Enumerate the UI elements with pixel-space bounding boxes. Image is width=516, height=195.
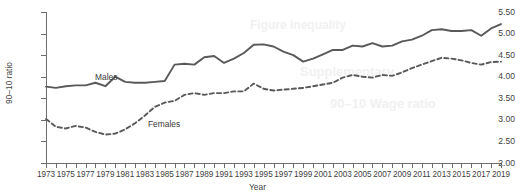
x-tick-mark — [224, 164, 225, 168]
x-tick-mark — [115, 164, 116, 168]
x-tick-mark — [95, 164, 96, 168]
x-tick-mark — [392, 164, 393, 168]
series-label-males: Males — [95, 72, 117, 82]
x-tick-mark — [382, 164, 383, 168]
x-tick-mark — [313, 164, 314, 168]
x-tick-mark — [244, 164, 245, 168]
x-tick-mark — [214, 164, 215, 168]
x-tick-mark — [254, 164, 255, 168]
x-tick-mark — [323, 164, 324, 168]
title-remnant — [6, 0, 306, 4]
x-tick-mark — [46, 164, 47, 168]
x-tick-mark — [333, 164, 334, 168]
x-tick-mark — [303, 164, 304, 168]
x-tick-mark — [175, 164, 176, 168]
y-axis-title: 90–10 ratio — [4, 53, 14, 113]
x-tick-mark — [56, 164, 57, 168]
x-tick-mark — [432, 164, 433, 168]
x-tick-mark — [66, 164, 67, 168]
x-tick-label: 2019 — [486, 170, 516, 179]
x-tick-mark — [471, 164, 472, 168]
series-line-females — [46, 58, 501, 135]
x-tick-mark — [274, 164, 275, 168]
x-tick-mark — [264, 164, 265, 168]
x-tick-mark — [363, 164, 364, 168]
x-tick-mark — [501, 164, 502, 168]
x-tick-mark — [204, 164, 205, 168]
x-tick-mark — [145, 164, 146, 168]
x-tick-mark — [283, 164, 284, 168]
x-tick-mark — [194, 164, 195, 168]
x-tick-mark — [135, 164, 136, 168]
x-tick-mark — [461, 164, 462, 168]
x-tick-mark — [422, 164, 423, 168]
x-tick-mark — [293, 164, 294, 168]
plot-area — [46, 12, 501, 163]
x-tick-mark — [234, 164, 235, 168]
x-tick-mark — [442, 164, 443, 168]
x-tick-mark — [452, 164, 453, 168]
x-tick-mark — [86, 164, 87, 168]
x-tick-mark — [165, 164, 166, 168]
x-tick-mark — [125, 164, 126, 168]
series-label-females: Females — [148, 119, 180, 129]
x-tick-mark — [412, 164, 413, 168]
x-tick-mark — [343, 164, 344, 168]
x-tick-mark — [76, 164, 77, 168]
series-lines — [46, 12, 501, 163]
x-tick-mark — [372, 164, 373, 168]
x-tick-mark — [155, 164, 156, 168]
x-tick-mark — [105, 164, 106, 168]
x-tick-mark — [184, 164, 185, 168]
x-tick-mark — [353, 164, 354, 168]
x-tick-mark — [402, 164, 403, 168]
x-axis-title: Year — [0, 182, 515, 192]
x-tick-mark — [481, 164, 482, 168]
x-tick-mark — [491, 164, 492, 168]
